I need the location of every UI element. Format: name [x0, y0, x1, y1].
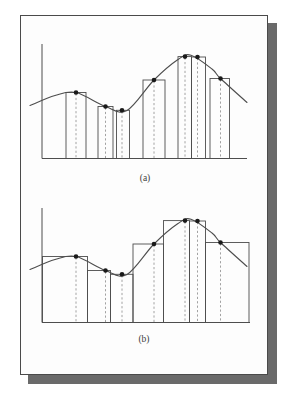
- panel-a: [30, 44, 247, 159]
- panel-b-sample-dot: [195, 219, 200, 224]
- panel-b-sample-dot: [74, 254, 79, 259]
- panel-b-rectangle: [206, 243, 250, 323]
- panel-a-rectangle: [98, 107, 113, 159]
- panel-a-sample-dot: [183, 54, 188, 59]
- panel-b-sample-dot: [183, 218, 188, 223]
- panel-b-sample-dot: [152, 242, 157, 247]
- panel-a-curve: [30, 55, 247, 113]
- panel-b-rectangle: [164, 221, 190, 323]
- panel-b-sample-dot: [218, 240, 223, 245]
- panel-b: [30, 208, 250, 323]
- figure-canvas: (a) (b): [0, 0, 292, 408]
- panel-b-rectangle: [43, 257, 88, 323]
- panel-a-sample-dot: [120, 108, 125, 113]
- panel-a-rectangle: [210, 79, 230, 159]
- page-background: (a) (b): [0, 0, 292, 408]
- panel-b-label: (b): [138, 334, 149, 345]
- panel-b-rectangle: [133, 244, 164, 323]
- panel-a-rectangle: [192, 57, 206, 159]
- panel-a-sample-dot: [195, 55, 200, 60]
- panel-b-rectangle: [88, 271, 111, 323]
- panel-b-curve: [30, 219, 247, 277]
- panel-a-sample-dot: [103, 104, 108, 109]
- panel-b-sample-dot: [120, 272, 125, 277]
- panel-a-sample-dot: [152, 78, 157, 83]
- panel-a-sample-dot: [218, 76, 223, 81]
- panel-a-sample-dot: [74, 90, 79, 95]
- panel-b-sample-dot: [103, 268, 108, 273]
- panel-a-rectangle: [117, 110, 130, 158]
- panel-a-label: (a): [140, 173, 151, 184]
